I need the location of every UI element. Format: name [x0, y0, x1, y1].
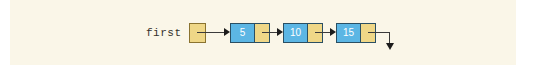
linked-list-diagram-screenshot: first 5 10 15: [0, 0, 534, 65]
list-node-3: 15: [336, 23, 376, 43]
link-line-head-to-node-1: [197, 32, 225, 33]
node-3-pointer-cell: [361, 23, 376, 43]
head-pointer-box: [189, 23, 206, 43]
node-1-value: 5: [230, 23, 255, 43]
link-line-node-2-to-node-3: [315, 32, 331, 33]
node-2-pointer-cell: [308, 23, 323, 43]
node-2-value: 10: [283, 23, 308, 43]
link-line-node-1-to-node-2: [262, 32, 278, 33]
diagram-canvas: first 5 10 15: [0, 0, 534, 65]
node-3-value: 15: [336, 23, 361, 43]
node-1-pointer-cell: [255, 23, 270, 43]
list-node-1: 5: [230, 23, 270, 43]
null-pointer-arrowhead-icon: [386, 43, 394, 50]
null-pointer-horizontal-segment: [368, 32, 390, 33]
head-pointer-label: first: [146, 25, 190, 41]
list-node-2: 10: [283, 23, 323, 43]
